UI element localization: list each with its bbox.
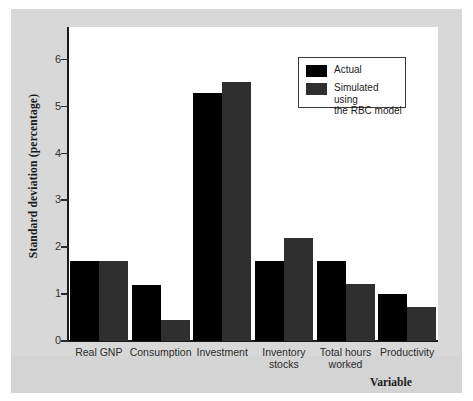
y-tick-label-2: 2 — [39, 241, 61, 252]
x-category-label-real-gnp: Real GNP — [68, 346, 130, 358]
y-tick-5 — [61, 106, 68, 108]
legend-swatch-actual — [306, 65, 327, 77]
bar-real-gnp-simulated — [99, 261, 128, 341]
y-tick-label-wrap: 0 — [34, 335, 61, 347]
y-tick-3 — [61, 199, 68, 201]
x-category-label-investment: Investment — [191, 346, 253, 358]
y-tick-label-1: 1 — [39, 288, 61, 299]
y-tick-0 — [61, 340, 68, 342]
bar-investment-actual — [193, 93, 222, 341]
bar-real-gnp-actual — [70, 261, 99, 341]
y-tick-1 — [61, 293, 68, 295]
y-tick-label-5: 5 — [39, 101, 61, 112]
y-tick-label-4: 4 — [39, 148, 61, 159]
x-category-label-total-hours-worked: Total hours worked — [315, 346, 377, 370]
bar-inventory-stocks-actual — [255, 261, 284, 341]
y-tick-label-3: 3 — [39, 194, 61, 205]
bar-consumption-actual — [132, 285, 161, 341]
legend-label-simulated: Simulated using the RBC model — [334, 82, 405, 117]
bar-total-hours-worked-actual — [317, 261, 346, 341]
x-axis-title: Variable — [370, 376, 412, 388]
bar-total-hours-worked-simulated — [346, 284, 375, 341]
bar-consumption-simulated — [161, 320, 190, 341]
x-category-label-inventory-stocks: Inventory stocks — [253, 346, 315, 370]
y-axis-title: Standard deviation (percentage) — [27, 56, 39, 296]
bar-productivity-actual — [378, 294, 407, 341]
legend-label-actual: Actual — [334, 64, 362, 76]
legend-entry-actual: Actual — [306, 64, 362, 77]
bar-inventory-stocks-simulated — [284, 238, 313, 341]
bar-productivity-simulated — [407, 307, 436, 341]
y-tick-4 — [61, 153, 68, 155]
y-tick-label-0: 0 — [39, 335, 61, 346]
legend-swatch-simulated — [306, 83, 327, 95]
y-tick-6 — [61, 59, 68, 61]
legend-entry-simulated: Simulated using the RBC model — [306, 82, 405, 117]
legend: Actual Simulated using the RBC model — [298, 57, 406, 108]
y-tick-label-6: 6 — [39, 54, 61, 65]
bar-investment-simulated — [222, 82, 251, 341]
y-tick-2 — [61, 246, 68, 248]
x-category-label-productivity: Productivity — [376, 346, 438, 358]
chart-figure: 0123456 Standard deviation (percentage) … — [0, 0, 473, 401]
x-category-label-consumption: Consumption — [130, 346, 192, 358]
